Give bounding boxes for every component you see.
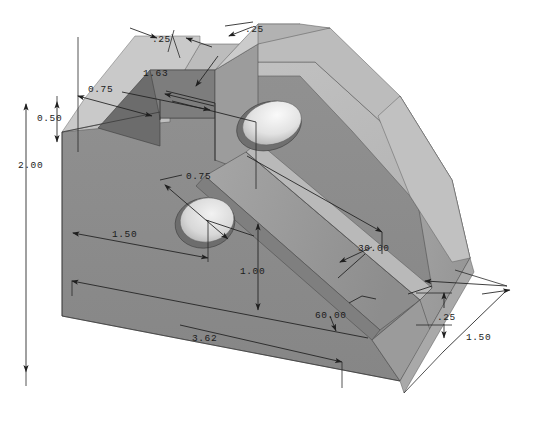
cad-drawing-canvas: 2.00 0.50 0.75 .25 (0, 0, 541, 421)
dim-slot-angle-label: 30.00 (358, 243, 390, 254)
dim-overall-length-label: 3.62 (192, 333, 217, 344)
isometric-part-drawing: 2.00 0.50 0.75 .25 (0, 0, 541, 421)
dim-base-thickness-label: .25 (437, 312, 456, 323)
dim-chamfer-angle-label: 60.00 (315, 310, 347, 321)
part-solid (62, 24, 474, 393)
dim-step-height: 0.50 (37, 102, 62, 142)
dim-step-height-label: 0.50 (37, 113, 62, 124)
dim-hole-offset-x-label: 1.50 (112, 229, 137, 240)
dim-overall-height: 2.00 (18, 104, 43, 372)
dim-hole-diameter-label: 0.75 (186, 171, 211, 182)
dim-slot-length-label: 1.63 (143, 68, 168, 79)
dim-notch-width-label: 0.75 (88, 84, 113, 95)
dim-hole-offset-y-label: 1.00 (240, 266, 265, 277)
dim-rib-width-left-label: .25 (152, 34, 171, 45)
dim-overall-height-label: 2.00 (18, 160, 43, 171)
dim-overall-depth-label: 1.50 (466, 332, 491, 343)
dim-rib-width-right-label: .25 (245, 24, 264, 35)
